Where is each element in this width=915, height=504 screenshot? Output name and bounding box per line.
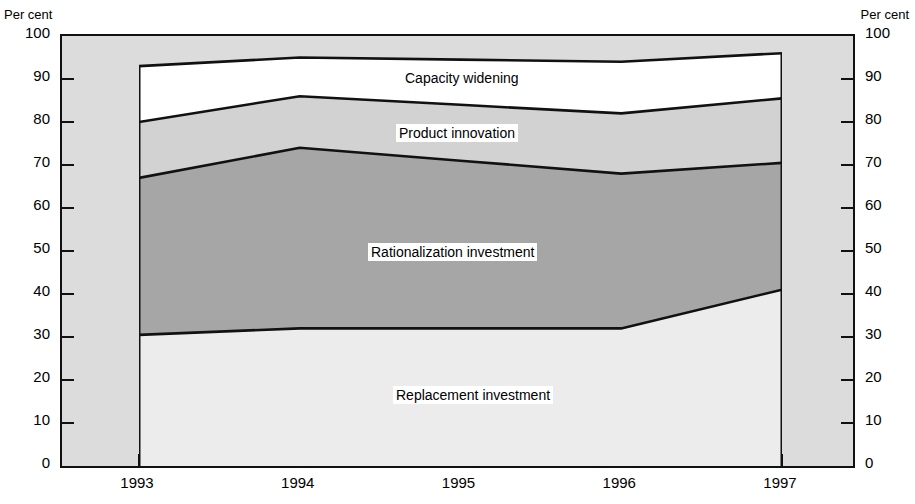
area-band-rationalization-investment (139, 148, 782, 335)
y-tick-right-80 (841, 121, 853, 123)
y-tick-left-10 (62, 422, 74, 424)
y-tick-right-60 (841, 207, 853, 209)
y-tick-right-50 (841, 250, 853, 252)
y-tick-label-left-90: 90 (8, 67, 50, 84)
x-tick-label-1993: 1993 (97, 474, 177, 491)
y-tick-label-right-0: 0 (865, 454, 907, 471)
y-tick-label-right-30: 30 (865, 325, 907, 342)
y-tick-left-90 (62, 78, 74, 80)
y-tick-label-left-60: 60 (8, 196, 50, 213)
y-tick-label-right-70: 70 (865, 153, 907, 170)
y-tick-left-60 (62, 207, 74, 209)
x-tick-label-1997: 1997 (740, 474, 820, 491)
y-tick-label-left-50: 50 (8, 239, 50, 256)
y-tick-label-left-40: 40 (8, 282, 50, 299)
y-tick-label-left-30: 30 (8, 325, 50, 342)
series-label-product-innovation: Product innovation (396, 124, 518, 142)
y-tick-right-10 (841, 422, 853, 424)
y-tick-label-right-80: 80 (865, 110, 907, 127)
y-tick-label-right-10: 10 (865, 411, 907, 428)
y-tick-label-right-100: 100 (865, 24, 907, 41)
series-label-capacity-widening: Capacity widening (402, 69, 522, 87)
series-label-replacement-investment: Replacement investment (393, 386, 553, 404)
x-tick-label-1995: 1995 (419, 474, 499, 491)
y-tick-left-80 (62, 121, 74, 123)
x-tick-label-1996: 1996 (579, 474, 659, 491)
y-tick-label-left-100: 100 (8, 24, 50, 41)
chart-figure: Per cent Per cent 0102030405060708090100… (0, 0, 915, 504)
y-tick-label-right-20: 20 (865, 368, 907, 385)
y-tick-label-left-10: 10 (8, 411, 50, 428)
y-tick-label-right-60: 60 (865, 196, 907, 213)
y-tick-left-50 (62, 250, 74, 252)
y-tick-right-90 (841, 78, 853, 80)
y-tick-label-right-50: 50 (865, 239, 907, 256)
y-tick-right-20 (841, 379, 853, 381)
y-tick-left-40 (62, 293, 74, 295)
y-tick-label-left-80: 80 (8, 110, 50, 127)
series-label-rationalization-investment: Rationalization investment (368, 243, 537, 261)
y-tick-left-30 (62, 336, 74, 338)
y-tick-left-70 (62, 164, 74, 166)
y-tick-label-left-20: 20 (8, 368, 50, 385)
x-tick-label-1994: 1994 (258, 474, 338, 491)
y-tick-label-left-70: 70 (8, 153, 50, 170)
y-tick-right-30 (841, 336, 853, 338)
y-tick-right-40 (841, 293, 853, 295)
y-tick-left-20 (62, 379, 74, 381)
y-tick-label-left-0: 0 (8, 454, 50, 471)
y-tick-label-right-40: 40 (865, 282, 907, 299)
y-tick-right-70 (841, 164, 853, 166)
y-axis-unit-right: Per cent (861, 7, 909, 22)
y-axis-unit-left: Per cent (4, 7, 52, 22)
y-tick-label-right-90: 90 (865, 67, 907, 84)
